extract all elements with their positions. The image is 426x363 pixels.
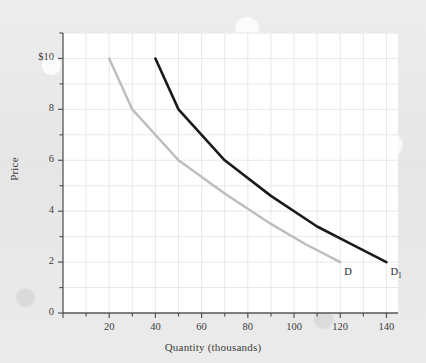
y-tick-label-2: 2 bbox=[20, 255, 54, 266]
y-tick-label-10: $10 bbox=[20, 51, 54, 62]
y-tick-label-6: 6 bbox=[20, 153, 54, 164]
demand-curve-figure: Quantity (thousands) Price 02468$1020406… bbox=[0, 0, 426, 363]
x-axis-title: Quantity (thousands) bbox=[0, 341, 426, 353]
curve-label-d1: D1 bbox=[390, 266, 401, 280]
plot-canvas bbox=[0, 0, 426, 363]
x-tick-label-100: 100 bbox=[274, 321, 314, 332]
y-axis-ticks bbox=[58, 33, 63, 313]
x-tick-label-140: 140 bbox=[366, 321, 406, 332]
y-tick-label-4: 4 bbox=[20, 204, 54, 215]
y-axis-title: Price bbox=[8, 139, 20, 199]
x-tick-label-20: 20 bbox=[89, 321, 129, 332]
curve-label-d: D bbox=[344, 266, 352, 277]
x-tick-label-60: 60 bbox=[182, 321, 222, 332]
y-tick-label-0: 0 bbox=[20, 306, 54, 317]
y-tick-label-8: 8 bbox=[20, 102, 54, 113]
x-tick-label-40: 40 bbox=[135, 321, 175, 332]
x-axis-ticks bbox=[63, 313, 386, 318]
x-tick-label-120: 120 bbox=[320, 321, 360, 332]
x-tick-label-80: 80 bbox=[228, 321, 268, 332]
